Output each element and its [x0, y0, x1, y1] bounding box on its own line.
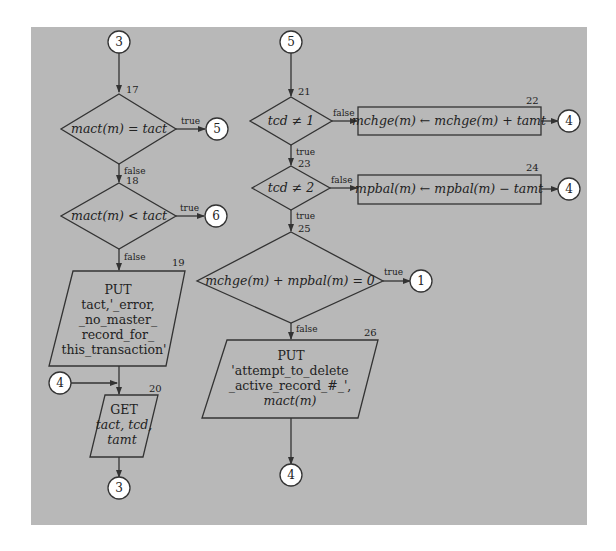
- decision-17-text: mact(m) = tact: [71, 121, 168, 136]
- branch-false-17: false: [124, 166, 146, 176]
- step-number-26: 26: [364, 327, 377, 338]
- step-number-17: 17: [126, 84, 139, 95]
- io-26-line-3: _active_record_#_',: [229, 378, 352, 393]
- io-26-line-4: mact(m): [264, 393, 317, 408]
- io-20-line-3: tamt: [107, 432, 137, 447]
- step-number-19: 19: [172, 257, 185, 268]
- connector-label: 3: [115, 481, 123, 495]
- io-19-line-5: this_transaction': [61, 342, 166, 357]
- io-20-line-1: GET: [110, 402, 138, 417]
- step-number-25: 25: [298, 223, 311, 234]
- branch-true-17: true: [181, 116, 200, 126]
- step-number-24: 24: [526, 162, 539, 173]
- io-26-line-2: 'attempt_to_delete: [231, 363, 348, 378]
- connector-label: 3: [115, 35, 123, 49]
- decision-23-text: tcd ≠ 2: [268, 180, 314, 195]
- io-19-line-3: _no_master_: [79, 312, 158, 327]
- branch-true-25: true: [384, 267, 403, 277]
- io-19-line-4: record_for_: [82, 327, 155, 342]
- process-24-text: mpbal(m) ← mpbal(m) − tamt: [355, 181, 544, 196]
- step-number-20: 20: [149, 383, 162, 394]
- branch-true-18: true: [180, 203, 199, 213]
- io-26-line-1: PUT: [277, 348, 305, 363]
- branch-false-23: false: [331, 175, 353, 185]
- branch-true-21: true: [296, 147, 315, 157]
- connector-label: 4: [56, 376, 64, 390]
- branch-true-23: true: [296, 211, 315, 221]
- process-22-text: mchge(m) ← mchge(m) + tamt: [352, 113, 547, 128]
- connector-label: 4: [287, 468, 295, 482]
- io-19-line-1: PUT: [104, 282, 132, 297]
- connector-label: 1: [417, 274, 425, 288]
- decision-18-text: mact(m) < tact: [71, 208, 168, 223]
- connector-label: 4: [565, 114, 573, 128]
- io-19-line-2: tact,'_error,: [81, 297, 155, 312]
- step-number-22: 22: [526, 95, 539, 106]
- decision-21-text: tcd ≠ 1: [268, 113, 314, 128]
- io-20-line-2: tact, tcd,: [96, 417, 152, 432]
- connector-label: 5: [287, 35, 295, 49]
- branch-false-18: false: [124, 252, 146, 262]
- step-number-18: 18: [126, 175, 139, 186]
- step-number-21: 21: [298, 86, 311, 97]
- connector-label: 6: [212, 209, 220, 223]
- decision-25-text: mchge(m) + mpbal(m) = 0: [205, 273, 375, 288]
- branch-false-25: false: [296, 324, 318, 334]
- step-number-23: 23: [298, 158, 311, 169]
- flowchart-canvas: 3 5 6 4 3 5 4 4 1 4 17 18 19 20 21 22 23…: [0, 0, 616, 551]
- connector-label: 4: [565, 182, 573, 196]
- connector-label: 5: [213, 122, 221, 136]
